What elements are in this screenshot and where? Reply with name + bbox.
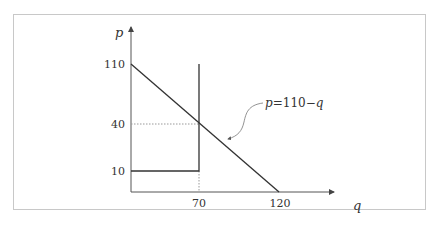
demand-equation-label: p=110−q — [265, 96, 324, 110]
y-tick-40: 40 — [111, 118, 125, 131]
y-tick-110: 110 — [104, 58, 125, 71]
x-tick-120: 120 — [270, 197, 291, 210]
y-axis-label: p — [115, 25, 124, 40]
chart: p=110−q p q 110 40 10 70 120 — [0, 0, 435, 229]
annotation-arrow — [228, 103, 263, 139]
y-tick-10: 10 — [111, 165, 125, 178]
demand-curve — [131, 64, 279, 192]
x-tick-70: 70 — [192, 197, 206, 210]
x-axis-label: q — [353, 198, 361, 213]
supply-curve — [131, 64, 199, 171]
